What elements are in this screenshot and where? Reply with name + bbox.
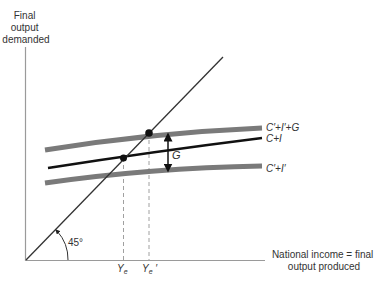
curve-c-prime-i-prime-g (45, 128, 262, 150)
curve-label-c-prime-i-prime-g: C′+I′+G (266, 122, 299, 133)
equilibrium-point-ye (120, 155, 127, 162)
curve-c-prime-i-prime (45, 166, 262, 183)
ye-prime-label: Ye ′ (142, 263, 158, 275)
y-axis-label: Final output demanded (2, 10, 49, 45)
equilibrium-point-ye-prime (145, 129, 153, 137)
ye-label: Ye (117, 263, 128, 275)
angle-arc (57, 231, 68, 260)
curve-label-c-i: C+I (266, 133, 282, 144)
x-axis-label: National income = final output produced (272, 249, 376, 272)
g-label: G (172, 149, 181, 161)
curve-label-c-prime-i-prime: C′+I′ (266, 163, 287, 174)
angle-label: 45° (68, 237, 83, 248)
keynesian-cross-diagram: Final output demanded National income = … (0, 0, 384, 286)
